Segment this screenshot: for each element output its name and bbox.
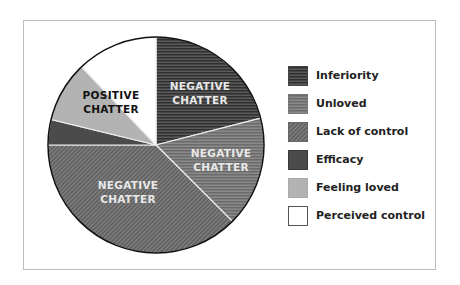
legend-label: Efficacy <box>316 153 363 166</box>
legend-item-inferiority: Inferiority <box>288 65 379 86</box>
legend-label: Lack of control <box>316 125 408 138</box>
annotation-line: NEGATIVE <box>98 178 159 192</box>
annotation-line: CHATTER <box>170 93 231 107</box>
legend-label: Unloved <box>316 97 367 110</box>
legend-item-unloved: Unloved <box>288 93 367 114</box>
legend-item-feeling-loved: Feeling loved <box>288 177 399 198</box>
legend-item-perceived-control: Perceived control <box>288 205 425 226</box>
annotation-line: CHATTER <box>191 160 252 174</box>
legend-item-lack-of-control: Lack of control <box>288 121 408 142</box>
annotation-negative-chatter-lack-of-control: NEGATIVE CHATTER <box>98 178 159 206</box>
annotation-line: NEGATIVE <box>191 146 252 160</box>
swatch-inferiority <box>288 66 308 86</box>
annotation-negative-chatter-inferiority: NEGATIVE CHATTER <box>170 79 231 107</box>
swatch-feeling-loved <box>288 178 308 198</box>
swatch-lack-of-control <box>288 122 308 142</box>
annotation-line: NEGATIVE <box>170 79 231 93</box>
swatch-perceived-control <box>288 206 308 226</box>
annotation-line: CHATTER <box>98 192 159 206</box>
swatch-efficacy <box>288 150 308 170</box>
pie-chart <box>0 0 460 285</box>
legend-label: Perceived control <box>316 209 425 222</box>
swatch-unloved <box>288 94 308 114</box>
legend-item-efficacy: Efficacy <box>288 149 363 170</box>
legend-label: Feeling loved <box>316 181 399 194</box>
annotation-positive-chatter: POSITIVE CHATTER <box>83 88 140 116</box>
legend-label: Inferiority <box>316 69 379 82</box>
annotation-negative-chatter-unloved: NEGATIVE CHATTER <box>191 146 252 174</box>
annotation-line: POSITIVE <box>83 88 140 102</box>
annotation-line: CHATTER <box>83 102 140 116</box>
